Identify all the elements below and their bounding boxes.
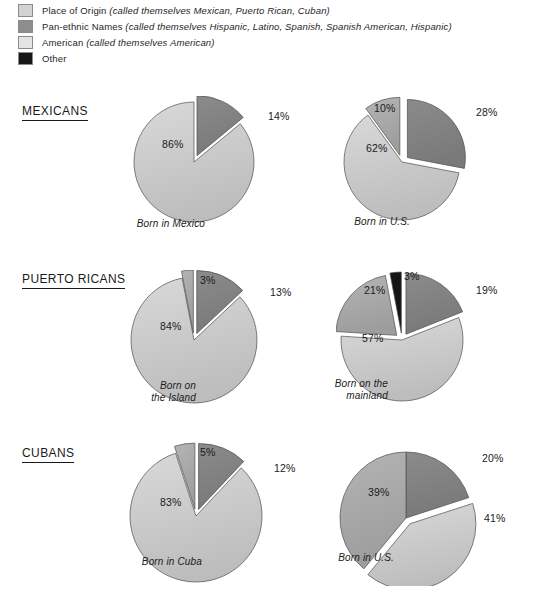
pie-slice-percent-label: 10% [374, 102, 396, 114]
pie-slice-percent-label: 3% [404, 270, 420, 282]
pie-slice [407, 100, 465, 169]
legend-label-other: Other [42, 53, 67, 64]
pie-chart-mexicans-born-in-us: 28%62%10%Born in U.S. [336, 94, 468, 226]
pie-slice-percent-label: 83% [160, 496, 182, 508]
pie-slice-percent-label: 41% [484, 512, 506, 524]
group-label-cubans: CUBANS [22, 446, 74, 460]
pie-caption: Born in Mexico [85, 218, 205, 230]
legend-label-pan-ethnic-names: Pan-ethnic Names (called themselves Hisp… [42, 21, 452, 32]
legend-item: Other [0, 50, 556, 66]
pie-slice-percent-label: 84% [160, 320, 182, 332]
pie-slice-percent-label: 3% [200, 274, 216, 286]
legend-item: Pan-ethnic Names (called themselves Hisp… [0, 18, 556, 34]
pie-slice-percent-label: 62% [366, 142, 388, 154]
pie-slice-percent-label: 13% [270, 286, 292, 298]
chart-row-mexicans: MEXICANS 14%86%Born in Mexico 28%62%10%B… [0, 78, 556, 238]
pie-caption: Born in U.S. [274, 552, 394, 564]
legend: Place of Origin (called themselves Mexic… [0, 0, 556, 66]
pie-caption: Born on themainland [268, 378, 388, 402]
pie-slice-percent-label: 19% [476, 284, 498, 296]
pie-caption: Born in Cuba [82, 556, 202, 568]
pie-slice-percent-label: 57% [362, 332, 384, 344]
pie-chart-cubans-born-in-cuba: 12%83%5%Born in Cuba [128, 442, 270, 584]
pie-slice-percent-label: 39% [368, 486, 390, 498]
legend-swatch-other [18, 52, 33, 65]
pie-chart-mexicans-born-in-mexico: 14%86%Born in Mexico [128, 96, 260, 228]
legend-item: American (called themselves American) [0, 34, 556, 50]
pie-graphic [128, 96, 260, 228]
pie-graphic [336, 94, 468, 226]
pie-graphic [336, 444, 478, 586]
legend-label-american: American (called themselves American) [42, 37, 215, 48]
pie-slice-percent-label: 21% [364, 284, 386, 296]
legend-label-place-of-origin: Place of Origin (called themselves Mexic… [42, 5, 330, 16]
group-label-mexicans: MEXICANS [22, 104, 88, 118]
chart-row-puerto-ricans: PUERTO RICANS 13%84%3%Born onthe Island … [0, 248, 556, 418]
pie-slice-percent-label: 86% [162, 138, 184, 150]
pie-caption: Born onthe Island [76, 380, 196, 404]
pie-slice-percent-label: 5% [200, 446, 216, 458]
group-label-puerto-ricans: PUERTO RICANS [22, 272, 125, 286]
chart-row-cubans: CUBANS 12%83%5%Born in Cuba 20%41%39%Bor… [0, 424, 556, 608]
legend-swatch-pan-ethnic-names [18, 20, 33, 33]
pie-chart-cubans-born-in-us: 20%41%39%Born in U.S. [336, 444, 478, 586]
pie-slice-percent-label: 14% [268, 110, 290, 122]
pie-caption: Born in U.S. [290, 216, 410, 228]
pie-slice-percent-label: 20% [482, 452, 504, 464]
pie-slice-percent-label: 12% [274, 462, 296, 474]
legend-swatch-american [18, 36, 33, 49]
pie-slice-percent-label: 28% [476, 106, 498, 118]
pie-chart-puerto-ricans-born-on-the-mainland: 19%57%21%3%Born on themainland [336, 270, 474, 408]
legend-swatch-place-of-origin [18, 4, 33, 17]
pie-chart-puerto-ricans-born-on-the-island: 13%84%3%Born onthe Island [128, 270, 266, 408]
legend-item: Place of Origin (called themselves Mexic… [0, 2, 556, 18]
